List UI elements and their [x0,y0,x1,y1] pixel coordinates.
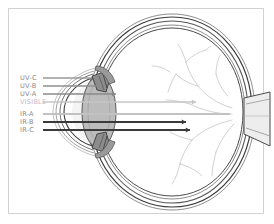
label-uv-c: UV-C [20,75,37,82]
eye-illustration [0,0,274,224]
label-ir-b: IR-B [20,119,34,126]
label-uv-a: UV-A [20,91,37,98]
label-ir-a: IR-A [20,111,34,118]
label-ir-c: IR-C [20,127,34,134]
eye-radiation-diagram: UV-CUV-BUV-AVISIBLEIR-AIR-BIR-C [0,0,274,224]
vitreous-body [100,28,243,196]
label-visible: VISIBLE [20,99,46,106]
optic-nerve [244,92,270,146]
label-uv-b: UV-B [20,83,36,90]
